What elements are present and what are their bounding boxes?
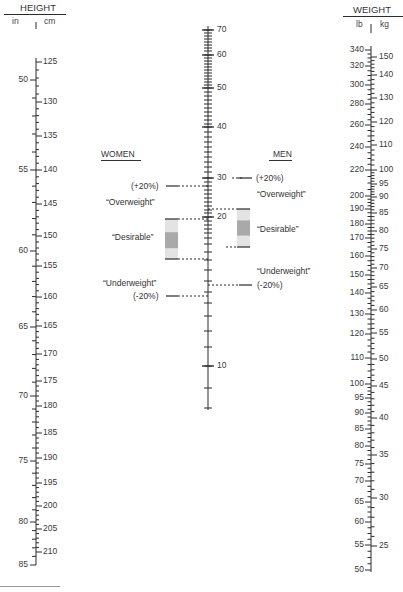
women-overweight-pct: (+20%) xyxy=(131,181,159,191)
height-in-label: 70 xyxy=(19,390,29,400)
height-cm-label: 125 xyxy=(43,56,57,66)
height-unit-cm: cm xyxy=(44,16,55,26)
weight-header-rule xyxy=(343,16,403,17)
footer-rule xyxy=(0,586,60,587)
height-in-label: 55 xyxy=(19,164,29,174)
men-underweight-pct: (-20%) xyxy=(257,280,283,290)
height-unit-in: in xyxy=(12,16,19,26)
weight-kg-label: 130 xyxy=(379,92,393,102)
height-cm-label: 200 xyxy=(43,500,57,510)
weight-lb-label: 180 xyxy=(350,218,364,228)
weight-kg-label: 35 xyxy=(379,449,389,459)
men-underweight-label: “Underweight” xyxy=(257,266,310,276)
men-title: MEN xyxy=(269,149,292,161)
weight-lb-label: 220 xyxy=(350,164,364,174)
weight-kg-label: 75 xyxy=(379,243,389,253)
weight-lb-label: 90 xyxy=(355,407,365,417)
height-cm-label: 165 xyxy=(43,320,57,330)
weight-kg-label: 30 xyxy=(379,492,389,502)
weight-kg-label: 120 xyxy=(379,116,393,126)
bmi-label: 30 xyxy=(217,172,227,182)
weight-kg-label: 100 xyxy=(379,164,393,174)
height-in-label: 80 xyxy=(19,516,29,526)
height-cm-label: 145 xyxy=(43,198,57,208)
men-desirable-label: “Desirable” xyxy=(257,224,299,234)
height-cm-label: 175 xyxy=(43,375,57,385)
weight-kg-label: 40 xyxy=(379,412,389,422)
bmi-label: 50 xyxy=(217,82,227,92)
height-cm-label: 185 xyxy=(43,427,57,437)
weight-lb-label: 240 xyxy=(350,141,364,151)
bmi-label: 60 xyxy=(217,49,227,59)
bmi-label: 20 xyxy=(217,211,227,221)
bmi-scale: 70605040302010 xyxy=(202,24,227,410)
weight-unit-kg: kg xyxy=(380,19,389,29)
weight-unit-lb: lb xyxy=(356,19,363,29)
weight-kg-label: 80 xyxy=(379,225,389,235)
men-overweight-pct: (+20%) xyxy=(256,173,284,183)
height-in-label: 75 xyxy=(19,455,29,465)
weight-lb-label: 260 xyxy=(350,119,364,129)
weight-lb-label: 60 xyxy=(355,516,365,526)
height-cm-label: 180 xyxy=(43,400,57,410)
bmi-label: 70 xyxy=(217,24,227,34)
weight-kg-label: 50 xyxy=(379,353,389,363)
height-in-label: 50 xyxy=(19,74,29,84)
weight-kg-label: 55 xyxy=(379,327,389,337)
weight-kg-label: 110 xyxy=(379,139,393,149)
weight-lb-label: 80 xyxy=(355,440,365,450)
men-overweight-label: “Overweight” xyxy=(257,189,306,199)
weight-kg-label: 90 xyxy=(379,191,389,201)
bmi-label: 40 xyxy=(217,121,227,131)
weight-lb-label: 50 xyxy=(355,564,365,574)
weight-lb-label: 110 xyxy=(350,352,364,362)
weight-title: WEIGHT xyxy=(350,4,394,15)
weight-lb-label: 300 xyxy=(350,79,364,89)
weight-lb-label: 85 xyxy=(355,423,365,433)
weight-lb-label: 75 xyxy=(355,458,365,468)
height-title: HEIGHT xyxy=(19,2,57,13)
height-cm-label: 150 xyxy=(43,230,57,240)
height-cm-label: 135 xyxy=(43,130,57,140)
bmi-nomogram: 5055606570758085125130135140145150155160… xyxy=(0,0,403,592)
weight-lb-label: 320 xyxy=(350,60,364,70)
height-cm-label: 130 xyxy=(43,96,57,106)
weight-lb-label: 160 xyxy=(350,250,364,260)
weight-lb-label: 120 xyxy=(350,328,364,338)
weight-lb-label: 70 xyxy=(355,475,365,485)
height-cm-label: 210 xyxy=(43,546,57,556)
weight-lb-label: 340 xyxy=(350,44,364,54)
women-title: WOMEN xyxy=(101,149,141,161)
women-desirable-label: “Desirable” xyxy=(112,232,154,242)
height-in-label: 65 xyxy=(19,321,29,331)
weight-lb-label: 130 xyxy=(350,308,364,318)
weight-lb-label: 55 xyxy=(355,539,365,549)
women-desirable-core-box xyxy=(165,232,178,248)
weight-lb-label: 190 xyxy=(350,203,364,213)
height-cm-label: 155 xyxy=(43,260,57,270)
height-header-rule xyxy=(4,14,66,15)
weight-kg-label: 150 xyxy=(379,51,393,61)
weight-kg-label: 95 xyxy=(379,178,389,188)
weight-lb-label: 150 xyxy=(350,269,364,279)
men-ranges xyxy=(208,178,252,285)
height-cm-label: 205 xyxy=(43,523,57,533)
weight-kg-label: 140 xyxy=(379,69,393,79)
weight-lb-label: 170 xyxy=(350,232,364,242)
women-ranges xyxy=(165,186,208,296)
women-overweight-label: “Overweight” xyxy=(106,197,155,207)
women-underweight-pct: (-20%) xyxy=(133,291,159,301)
height-in-label: 60 xyxy=(19,245,29,255)
weight-lb-label: 280 xyxy=(350,98,364,108)
weight-scale: 3403203002802602402202001901801701601501… xyxy=(350,24,394,574)
men-desirable-core-box xyxy=(237,220,250,235)
weight-lb-label: 100 xyxy=(350,378,364,388)
weight-kg-label: 65 xyxy=(379,281,389,291)
weight-kg-label: 85 xyxy=(379,207,389,217)
height-in-label: 85 xyxy=(19,559,29,569)
height-scale: 5055606570758085125130135140145150155160… xyxy=(19,22,58,569)
bmi-label: 10 xyxy=(217,360,227,370)
weight-kg-label: 60 xyxy=(379,304,389,314)
weight-lb-label: 95 xyxy=(355,392,365,402)
height-cm-label: 160 xyxy=(43,291,57,301)
